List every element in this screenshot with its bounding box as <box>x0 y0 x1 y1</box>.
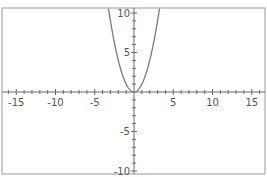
x-tick-label: 5 <box>170 97 176 108</box>
function-plot: -15-10-551015105-5-10 <box>0 0 267 176</box>
y-tick-label: 10 <box>117 8 130 19</box>
x-tick-label: -15 <box>8 97 24 108</box>
x-tick-label: 10 <box>206 97 219 108</box>
y-tick-label: 5 <box>124 47 130 58</box>
x-tick-label: -5 <box>90 97 100 108</box>
x-tick-label: -10 <box>47 97 63 108</box>
y-tick-label: -10 <box>114 166 130 177</box>
y-tick-label: -5 <box>120 126 130 137</box>
x-tick-label: 15 <box>245 97 258 108</box>
